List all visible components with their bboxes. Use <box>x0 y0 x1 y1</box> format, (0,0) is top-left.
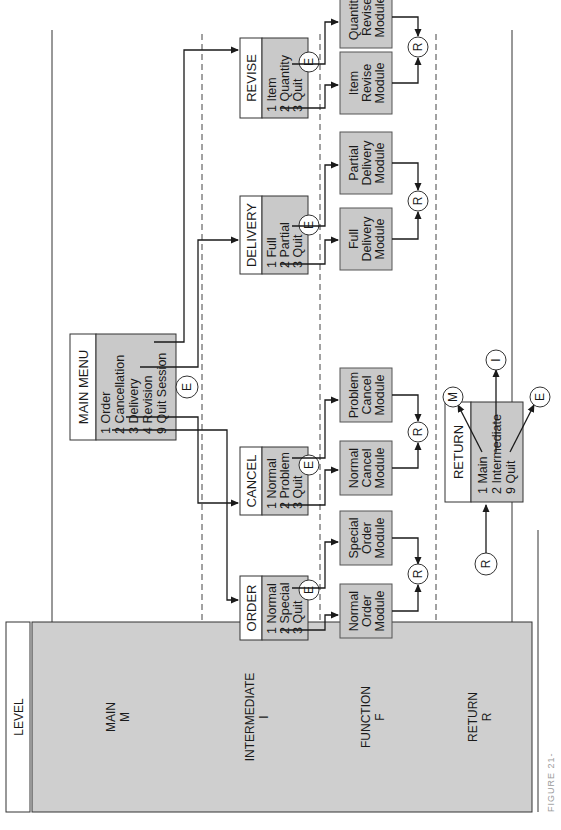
svg-text:Quantity: Quantity <box>347 0 361 40</box>
level-intermediate-name: INTERMEDIATE <box>243 673 257 761</box>
svg-text:Revise: Revise <box>360 64 374 102</box>
svg-text:Module: Module <box>373 517 387 558</box>
level-main-code: M <box>118 712 132 722</box>
svg-text:Normal: Normal <box>347 591 361 631</box>
svg-text:Full: Full <box>347 229 361 249</box>
main-menu-title: MAIN MENU <box>76 350 91 424</box>
svg-text:1 Item: 1 Item <box>265 77 279 112</box>
svg-text:Item: Item <box>347 71 361 95</box>
delivery-menu: DELIVERY 1 Full 2 Partial 3 Quit E <box>240 196 319 274</box>
level-return-code: R <box>480 712 494 721</box>
svg-text:Module: Module <box>373 62 387 103</box>
svg-text:ORDER: ORDER <box>244 585 259 632</box>
svg-text:E: E <box>302 586 316 594</box>
level-header: LEVEL <box>12 698 26 736</box>
svg-text:3 Quit: 3 Quit <box>291 475 305 509</box>
svg-text:Revise: Revise <box>360 0 374 36</box>
main-menu-item-cancellation: 2 Cancellation <box>113 355 127 434</box>
svg-text:3 Quit: 3 Quit <box>291 600 305 634</box>
svg-text:R: R <box>411 427 425 436</box>
svg-text:M: M <box>446 392 460 402</box>
svg-text:Special: Special <box>347 518 361 559</box>
level-main-name: MAIN <box>104 702 118 732</box>
svg-text:Partial: Partial <box>347 145 361 180</box>
svg-text:Delivery: Delivery <box>360 140 374 186</box>
return-connectors: R R R R <box>408 37 428 584</box>
svg-text:R: R <box>411 196 425 205</box>
svg-text:2 Quantity: 2 Quantity <box>278 54 292 112</box>
svg-text:E: E <box>302 461 316 469</box>
figure-caption: FIGURE 21- <box>546 752 556 812</box>
svg-text:Module: Module <box>373 447 387 488</box>
svg-text:Order: Order <box>360 522 374 554</box>
level-function-code: F <box>373 713 387 720</box>
svg-text:E: E <box>302 221 316 229</box>
svg-text:DELIVERY: DELIVERY <box>244 203 259 267</box>
svg-text:2 Intermediate: 2 Intermediate <box>490 414 504 494</box>
revise-menu: REVISE 1 Item 2 Quantity 3 Quit E <box>240 38 319 118</box>
svg-text:2 Problem: 2 Problem <box>278 452 292 509</box>
level-return-name: RETURN <box>466 692 480 742</box>
svg-text:1 Normal: 1 Normal <box>265 583 279 634</box>
module-return-arrows <box>392 17 418 611</box>
main-menu-item-delivery: 3 Delivery <box>127 378 141 434</box>
svg-text:R: R <box>411 42 425 51</box>
function-modules: Normal Order Module Special Order Module… <box>340 0 392 638</box>
main-menu-item-revision: 4 Revision <box>141 376 155 434</box>
svg-text:E: E <box>533 393 547 401</box>
svg-text:3 Quit: 3 Quit <box>291 78 305 112</box>
menu-hierarchy-diagram: LEVEL MAIN M INTERMEDIATE I FUNCTION F R… <box>0 0 561 830</box>
svg-text:Normal: Normal <box>347 448 361 488</box>
main-menu-box: MAIN MENU 1 Order 2 Cancellation 3 Deliv… <box>70 334 198 440</box>
main-menu-item-quit-session: 9 Quit Session <box>155 353 169 434</box>
svg-text:Module: Module <box>373 374 387 415</box>
svg-text:Problem: Problem <box>347 372 361 419</box>
svg-text:9 Quit: 9 Quit <box>504 460 518 494</box>
svg-text:Order: Order <box>360 595 374 627</box>
svg-text:CANCEL: CANCEL <box>244 455 259 508</box>
svg-text:2 Special: 2 Special <box>278 583 292 634</box>
main-menu-arrows <box>112 50 238 600</box>
svg-text:1 Normal: 1 Normal <box>265 458 279 509</box>
level-function-name: FUNCTION <box>359 686 373 748</box>
svg-text:Module: Module <box>373 590 387 631</box>
svg-text:Cancel: Cancel <box>360 449 374 488</box>
level-intermediate-code: I <box>257 715 271 718</box>
level-column: LEVEL MAIN M INTERMEDIATE I FUNCTION F R… <box>6 622 532 812</box>
svg-text:Module: Module <box>373 218 387 259</box>
svg-text:Module: Module <box>373 142 387 183</box>
svg-text:RETURN: RETURN <box>451 425 466 479</box>
svg-text:Delivery: Delivery <box>360 216 374 262</box>
svg-text:Module: Module <box>373 0 387 38</box>
svg-text:1 Full: 1 Full <box>265 237 279 268</box>
svg-text:1 Main: 1 Main <box>476 456 490 494</box>
main-menu-item-order: 1 Order <box>99 392 113 434</box>
svg-text:I: I <box>489 358 503 361</box>
svg-text:R: R <box>479 559 493 568</box>
svg-text:R: R <box>411 569 425 578</box>
svg-text:3 Quit: 3 Quit <box>291 234 305 268</box>
svg-text:E: E <box>180 383 194 391</box>
svg-text:REVISE: REVISE <box>244 54 259 102</box>
svg-text:Cancel: Cancel <box>360 376 374 415</box>
svg-text:E: E <box>302 58 316 66</box>
svg-text:2 Partial: 2 Partial <box>278 222 292 268</box>
return-menu: R RETURN 1 Main 2 Intermediate 9 Quit M … <box>443 350 550 575</box>
